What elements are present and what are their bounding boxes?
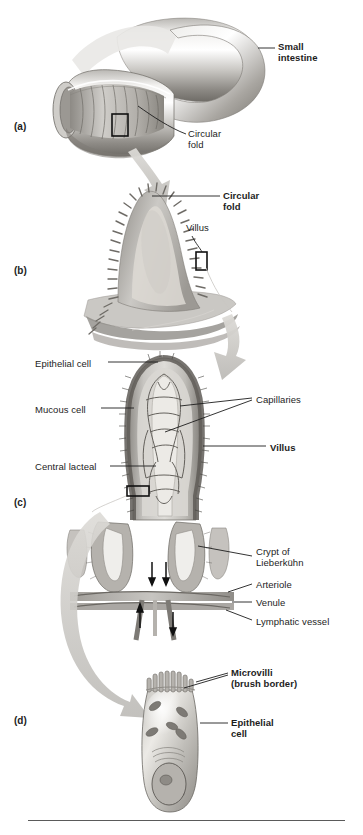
leader-villus-b bbox=[192, 236, 202, 252]
label-microvilli: Microvilli (brush border) bbox=[231, 667, 297, 689]
leader-microvilli-1 bbox=[196, 673, 228, 682]
panel-marker-b: (b) bbox=[14, 265, 27, 276]
panel-d-artwork bbox=[142, 671, 228, 812]
label-small-intestine: Small intestine bbox=[278, 41, 318, 63]
leader-lymphatic-vessel bbox=[226, 610, 252, 620]
label-villus-c: Villus bbox=[270, 442, 295, 453]
label-villus-b: Villus bbox=[186, 222, 209, 233]
label-venule: Venule bbox=[256, 597, 285, 608]
label-capillaries: Capillaries bbox=[256, 394, 301, 405]
nucleolus bbox=[160, 775, 172, 785]
label-circular-fold-a: Circular fold bbox=[188, 128, 221, 150]
label-central-lacteal: Central lacteal bbox=[35, 461, 96, 472]
footer-rule bbox=[28, 820, 345, 821]
panel-a-artwork bbox=[53, 18, 275, 206]
label-lymphatic-vessel: Lymphatic vessel bbox=[256, 616, 329, 627]
panel-b-artwork bbox=[84, 183, 246, 380]
label-epithelial-cell-d: Epithelial cell bbox=[231, 717, 274, 739]
panel-marker-a: (a) bbox=[14, 121, 26, 132]
label-arteriole: Arteriole bbox=[256, 579, 292, 590]
anatomy-illustration bbox=[0, 0, 363, 835]
label-mucous-cell: Mucous cell bbox=[35, 404, 86, 415]
panel-c-artwork bbox=[61, 351, 266, 718]
panel-marker-c: (c) bbox=[14, 497, 26, 508]
leader-arteriole bbox=[228, 584, 252, 592]
panel-marker-d: (d) bbox=[14, 715, 27, 726]
label-circular-fold-b: Circular fold bbox=[223, 190, 259, 212]
microvilli-brush-border bbox=[146, 671, 195, 692]
figure-canvas: (a) (b) (c) (d) Small intestine Circular… bbox=[0, 0, 363, 835]
label-crypt-of-lieberkuhn: Crypt of Lieberkühn bbox=[256, 546, 304, 568]
label-epithelial-cell-c: Epithelial cell bbox=[35, 358, 91, 369]
